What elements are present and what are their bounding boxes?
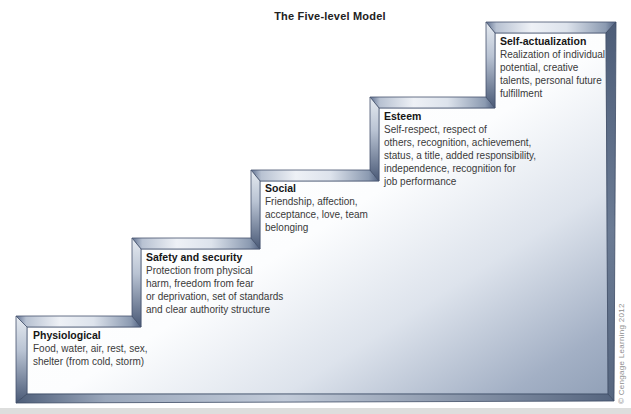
- step-description: Food, water, air, rest, sex, shelter (fr…: [33, 342, 183, 368]
- page-title: The Five-level Model: [30, 10, 630, 22]
- step-physiological: Physiological Food, water, air, rest, se…: [33, 329, 183, 368]
- step-label: Safety and security: [146, 251, 336, 264]
- tread-bevel-self-actualization: [486, 22, 616, 33]
- page-edge-band: [0, 408, 631, 414]
- riser-bevel-physiological: [16, 316, 27, 403]
- riser-bevel-self-actualization: [486, 22, 495, 108]
- figure-canvas: The Five-level Model Physiological Food,…: [0, 0, 631, 414]
- step-description: Protection from physical harm, freedom f…: [146, 264, 336, 316]
- riser-bevel-esteem: [370, 97, 379, 181]
- tread-bevel-safety: [132, 238, 260, 249]
- step-description: Self-respect, respect of others, recogni…: [384, 123, 579, 188]
- bottom-bevel: [16, 394, 614, 403]
- copyright-credit: © Cengage Learning 2012: [617, 303, 626, 404]
- step-self-actualization: Self-actualization Realization of indivi…: [500, 35, 615, 100]
- riser-bevel-social: [251, 170, 260, 249]
- step-label: Esteem: [384, 110, 579, 123]
- step-social: Social Friendship, affection, acceptance…: [265, 182, 425, 234]
- step-description: Realization of individual potential, cre…: [500, 48, 615, 100]
- tread-bevel-physiological: [16, 316, 141, 327]
- tread-bevel-esteem: [370, 97, 495, 108]
- step-esteem: Esteem Self-respect, respect of others, …: [384, 110, 579, 188]
- step-description: Friendship, affection, acceptance, love,…: [265, 195, 425, 234]
- step-safety-and-security: Safety and security Protection from phys…: [146, 251, 336, 316]
- step-label: Physiological: [33, 329, 183, 342]
- riser-bevel-safety: [132, 238, 141, 327]
- tread-bevel-social: [251, 170, 379, 181]
- step-label: Self-actualization: [500, 35, 615, 48]
